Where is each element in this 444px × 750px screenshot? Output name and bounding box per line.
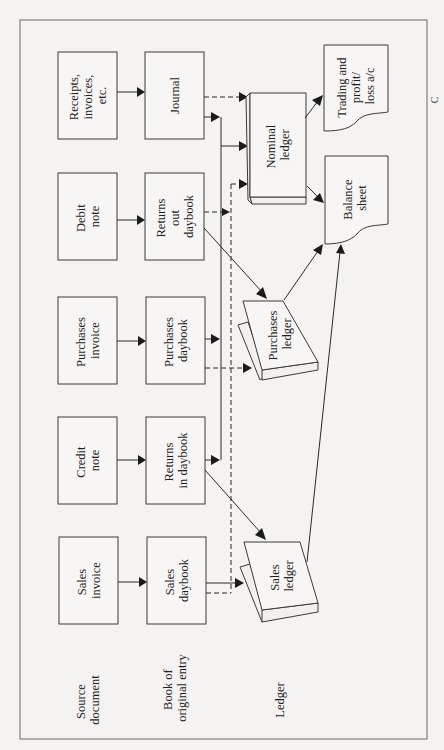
sales-ledger-book: Sales ledger <box>240 542 318 622</box>
row-label-ledger: Ledger <box>273 681 287 717</box>
book-purchases-daybook-box: Purchases daybook <box>146 297 205 384</box>
svg-text:Journal: Journal <box>168 77 182 114</box>
daybook-to-personal-ledger-arrows <box>204 228 267 588</box>
source-purchases-invoice-box: Purchases invoice <box>58 297 117 384</box>
book-returns-out-daybook-box: Returns out daybook <box>145 173 204 260</box>
trading-profit-loss-account: Trading and profit/ loss a/c <box>324 45 388 131</box>
accounting-flow-diagram: Receipts, invoices, etc. Debit note Purc… <box>0 0 444 750</box>
solid-bus-to-nominal <box>204 112 248 465</box>
source-to-book-arrows <box>117 87 147 587</box>
source-debit-note-box: Debit note <box>58 173 117 260</box>
book-journal-box: Journal <box>145 52 204 139</box>
book-returns-in-daybook-box: Returns in daybook <box>146 417 205 504</box>
balance-sheet: Balance sheet <box>325 156 388 244</box>
source-credit-note-box: Credit note <box>58 417 117 504</box>
source-receipts-box: Receipts, invoices, etc. <box>58 52 117 139</box>
nominal-ledger-book: Nominal ledger <box>246 93 306 204</box>
svg-text:Sales invoice: Sales invoice <box>75 562 103 599</box>
svg-text:Ledger: Ledger <box>273 681 287 717</box>
svg-text:Sales ledger: Sales ledger <box>268 560 296 592</box>
svg-text:Purchases daybook: Purchases daybook <box>162 314 190 367</box>
row-label-book-of-original-entry: Book of original entry <box>161 653 189 721</box>
svg-text:Book of original entry: Book of original entry <box>161 653 189 721</box>
book-sales-daybook-box: Sales daybook <box>147 537 206 624</box>
row-label-source-document: Source document <box>74 675 102 725</box>
page-edge-mark: C <box>429 96 440 103</box>
source-sales-invoice-box: Sales invoice <box>59 537 118 624</box>
svg-text:Returns in daybook: Returns in daybook <box>162 432 190 489</box>
svg-text:Source document: Source document <box>74 675 102 725</box>
